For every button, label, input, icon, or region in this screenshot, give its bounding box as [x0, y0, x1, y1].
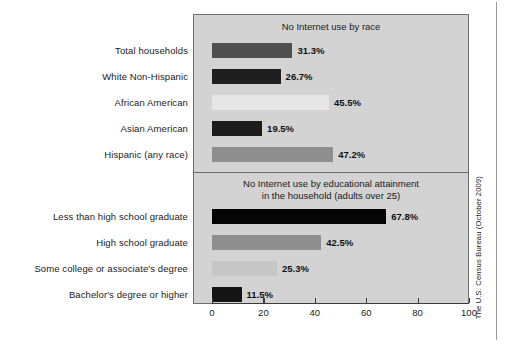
category-label-education-2: Some college or associate's degree — [0, 263, 188, 274]
chart-figure: No Internet use by race No Internet use … — [0, 0, 512, 358]
panel-race-title: No Internet use by race — [194, 21, 468, 33]
category-label-race-0: Total households — [0, 45, 188, 56]
x-tick-label-40: 40 — [310, 307, 321, 318]
bar-race-4 — [212, 147, 333, 162]
bar-value-race-2: 45.5% — [334, 95, 361, 110]
bar-race-3 — [212, 121, 262, 136]
bar-value-race-0: 31.3% — [297, 43, 324, 58]
x-tick-label-60: 60 — [361, 307, 372, 318]
bar-value-race-4: 47.2% — [338, 147, 365, 162]
bar-education-2 — [212, 261, 277, 276]
bar-value-education-1: 42.5% — [326, 235, 353, 250]
category-label-education-0: Less than high school graduate — [0, 211, 188, 222]
bar-race-1 — [212, 69, 281, 84]
x-tick-40 — [315, 298, 316, 303]
source-credit: The U.S. Census Bureau (October 2009) — [474, 176, 483, 319]
bar-value-race-1: 26.7% — [286, 69, 313, 84]
bar-race-2 — [212, 95, 329, 110]
bar-value-education-3: 11.5% — [247, 287, 273, 302]
x-tick-0 — [212, 298, 213, 303]
category-label-education-3: Bachelor's degree or higher — [0, 289, 188, 300]
bar-value-education-0: 67.8% — [391, 209, 418, 224]
bar-value-education-2: 25.3% — [282, 261, 309, 276]
bar-value-race-3: 19.5% — [267, 121, 294, 136]
bar-education-1 — [212, 235, 321, 250]
category-label-race-4: Hispanic (any race) — [0, 149, 188, 160]
panel-education-title: No Internet use by educational attainmen… — [194, 178, 468, 201]
x-tick-20 — [263, 298, 264, 303]
category-label-race-2: African American — [0, 97, 188, 108]
category-label-education-1: High school graduate — [0, 237, 188, 248]
bar-education-0 — [212, 209, 386, 224]
bar-race-0 — [212, 43, 292, 58]
category-label-race-1: White Non-Hispanic — [0, 71, 188, 82]
x-tick-100 — [469, 298, 470, 303]
x-tick-label-0: 0 — [209, 307, 214, 318]
x-tick-label-20: 20 — [258, 307, 269, 318]
bar-education-3 — [212, 287, 242, 302]
category-label-race-3: Asian American — [0, 123, 188, 134]
x-axis — [212, 303, 469, 304]
x-tick-80 — [418, 298, 419, 303]
x-tick-60 — [366, 298, 367, 303]
x-tick-label-80: 80 — [412, 307, 423, 318]
page-edge-rule — [496, 2, 497, 340]
